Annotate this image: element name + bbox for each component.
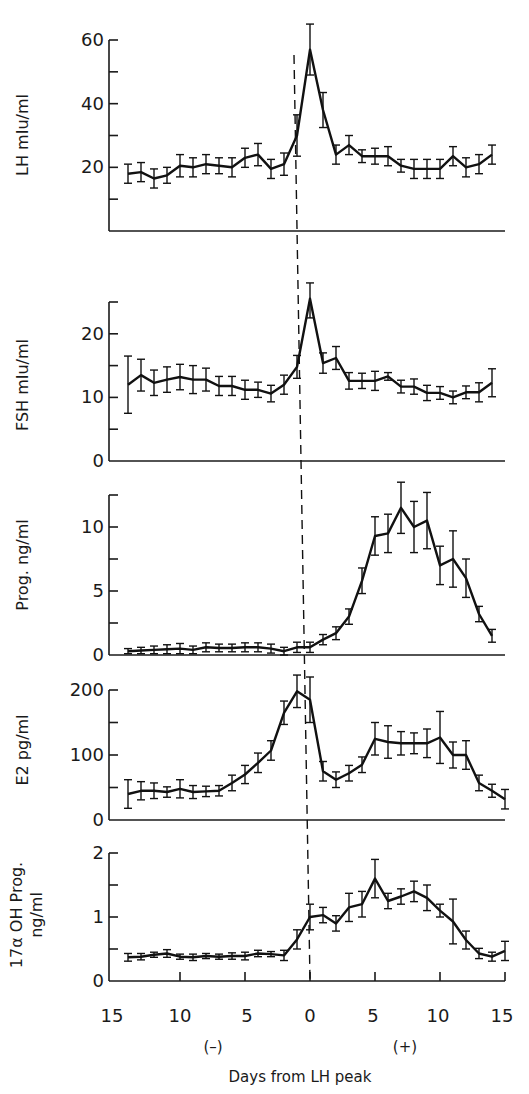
y-tick-label: 1 bbox=[93, 906, 104, 927]
y-tick-label: 2 bbox=[93, 842, 104, 863]
y-axis-label: E2 pg/ml bbox=[13, 714, 32, 785]
x-tick-label: 5 bbox=[367, 1005, 378, 1026]
chart-canvas: 204060LH mIu/ml01020FSH mIu/ml0510Prog. … bbox=[0, 0, 529, 1094]
panel-fsh: 01020FSH mIu/ml bbox=[13, 283, 505, 471]
data-series-line bbox=[128, 508, 492, 651]
y-tick-label: 10 bbox=[81, 386, 104, 407]
data-series-line bbox=[128, 691, 505, 799]
y-axis-label: 17α OH Prog.ng/ml bbox=[7, 862, 46, 968]
panels: 204060LH mIu/ml01020FSH mIu/ml0510Prog. … bbox=[7, 24, 509, 991]
y-tick-label: 0 bbox=[93, 450, 104, 471]
x-sign-negative: (–) bbox=[203, 1038, 222, 1056]
x-sign-positive: (+) bbox=[393, 1038, 417, 1056]
y-tick-label: 20 bbox=[81, 323, 104, 344]
y-axis-label: LH mIu/ml bbox=[13, 94, 32, 176]
panel-estradiol: 0100200E2 pg/ml bbox=[13, 675, 509, 830]
y-tick-label: 40 bbox=[81, 93, 104, 114]
x-tick-label: 10 bbox=[169, 1005, 192, 1026]
y-tick-label: 200 bbox=[70, 679, 104, 700]
y-tick-label: 0 bbox=[93, 970, 104, 991]
x-tick-label: 0 bbox=[304, 1005, 315, 1026]
y-tick-label: 60 bbox=[81, 29, 104, 50]
x-tick-label: 15 bbox=[491, 1005, 514, 1026]
lh-peak-dashed-line bbox=[294, 55, 310, 981]
y-tick-label: 100 bbox=[70, 744, 104, 765]
x-tick-label: 10 bbox=[427, 1005, 450, 1026]
panel-17-oh-progesterone: 01217α OH Prog.ng/ml bbox=[7, 842, 509, 991]
x-tick-label: 15 bbox=[101, 1005, 124, 1026]
y-tick-label: 0 bbox=[93, 809, 104, 830]
y-tick-label: 10 bbox=[81, 516, 104, 537]
x-axis-tick-labels: 15 10 5 0 5 10 15 bbox=[101, 1005, 514, 1026]
panel-progesterone: 0510Prog. ng/ml bbox=[13, 482, 505, 665]
x-axis-label: Days from LH peak bbox=[229, 1068, 372, 1086]
y-tick-label: 20 bbox=[81, 156, 104, 177]
y-tick-label: 5 bbox=[93, 580, 104, 601]
y-axis-label: FSH mIu/ml bbox=[13, 339, 32, 431]
y-axis-label: Prog. ng/ml bbox=[13, 519, 32, 610]
panel-lh: 204060LH mIu/ml bbox=[13, 24, 505, 231]
x-tick-label: 5 bbox=[241, 1005, 252, 1026]
y-tick-label: 0 bbox=[93, 644, 104, 665]
hormone-profile-figure: 204060LH mIu/ml01020FSH mIu/ml0510Prog. … bbox=[0, 0, 529, 1094]
data-series-line bbox=[128, 879, 505, 958]
